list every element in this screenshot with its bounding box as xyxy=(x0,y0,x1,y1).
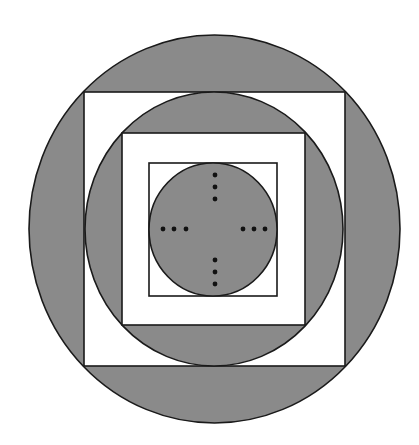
dot-right xyxy=(263,227,268,232)
dot-bottom xyxy=(213,282,218,287)
dot-left xyxy=(161,227,166,232)
dot-left xyxy=(184,227,189,232)
dot-top xyxy=(213,173,218,178)
nested-shapes-diagram xyxy=(0,0,419,445)
dot-right xyxy=(241,227,246,232)
dot-top xyxy=(213,197,218,202)
dot-right xyxy=(252,227,257,232)
dot-top xyxy=(213,185,218,190)
dot-bottom xyxy=(213,258,218,263)
inner-circle xyxy=(149,163,277,296)
dot-bottom xyxy=(213,270,218,275)
dot-left xyxy=(172,227,177,232)
